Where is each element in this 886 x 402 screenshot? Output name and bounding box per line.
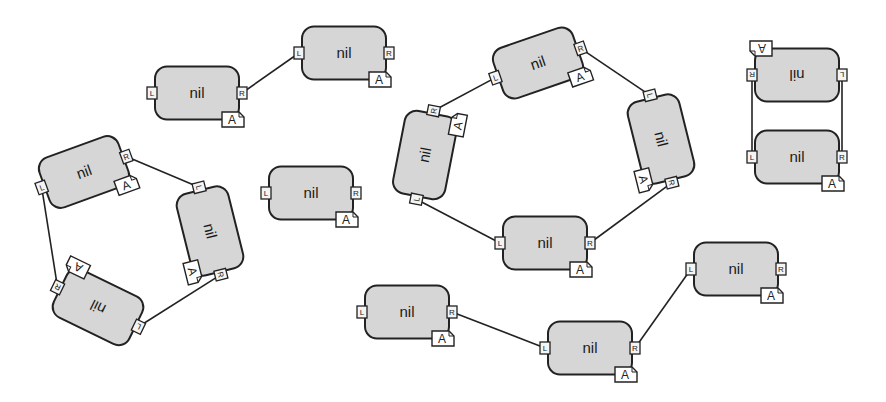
badge-label: A — [767, 289, 775, 303]
edge-r4-r1[interactable] — [434, 78, 496, 111]
port-label: R — [353, 189, 359, 198]
node-label: nil — [415, 146, 435, 164]
port-label: L — [543, 344, 548, 353]
badge-label: A — [576, 263, 584, 277]
port-right[interactable]: R — [585, 237, 595, 249]
port-label: R — [386, 49, 392, 58]
port-right[interactable]: R — [351, 187, 361, 199]
node-graph: nilLRAnilLRAnilLRAnilLRAnilLRAnilLRAnilL… — [0, 0, 886, 402]
badge-label: A — [828, 177, 836, 191]
node-label: nil — [582, 339, 597, 356]
node-label: nil — [728, 260, 743, 277]
port-label: L — [750, 153, 755, 162]
annotation-badge-icon[interactable]: A — [761, 288, 783, 303]
port-label: R — [449, 308, 455, 317]
port-left[interactable]: L — [495, 237, 505, 249]
node-r3[interactable]: nilLRA — [495, 217, 595, 278]
node-iso[interactable]: nilLRA — [261, 167, 361, 228]
node-c2[interactable]: nilLRA — [540, 322, 640, 383]
edge-t2-t3[interactable] — [138, 275, 220, 327]
node-t2[interactable]: nilLRA — [165, 176, 248, 288]
port-label: L — [839, 70, 844, 79]
badge-label: A — [758, 41, 766, 55]
port-right[interactable]: R — [837, 151, 847, 163]
annotation-badge-icon[interactable]: A — [570, 262, 592, 277]
badge-label: A — [621, 368, 629, 382]
node-label: nil — [336, 44, 351, 61]
node-r1[interactable]: nilLRA — [482, 22, 596, 112]
port-right[interactable]: R — [630, 342, 640, 354]
port-label: R — [839, 153, 845, 162]
node-c3[interactable]: nilLRA — [686, 243, 786, 304]
port-left[interactable]: L — [147, 87, 157, 99]
badge-label: A — [375, 73, 383, 87]
port-left[interactable]: L — [747, 151, 757, 163]
node-p1[interactable]: nilLRA — [747, 41, 847, 102]
port-right[interactable]: R — [447, 306, 457, 318]
port-left[interactable]: L — [192, 181, 206, 194]
node-n1[interactable]: nilLRA — [147, 67, 247, 128]
badge-label: A — [342, 213, 350, 227]
node-label: nil — [537, 234, 552, 251]
port-right[interactable]: R — [384, 47, 394, 59]
node-t3[interactable]: nilLRA — [41, 255, 157, 353]
annotation-badge-icon[interactable]: A — [615, 367, 637, 382]
port-right[interactable]: R — [776, 263, 786, 275]
port-left[interactable]: L — [686, 263, 696, 275]
edge-r2-r3[interactable] — [590, 183, 672, 243]
port-left[interactable]: L — [294, 47, 304, 59]
port-label: L — [297, 49, 302, 58]
annotation-badge-icon[interactable]: A — [448, 112, 467, 136]
port-right[interactable]: R — [214, 268, 228, 281]
badge-label: A — [228, 113, 236, 127]
port-label: L — [264, 189, 269, 198]
port-left[interactable]: L — [643, 89, 657, 102]
port-label: R — [239, 89, 245, 98]
port-label: L — [150, 89, 155, 98]
annotation-badge-icon[interactable]: A — [822, 176, 844, 191]
edge-c1-c2[interactable] — [452, 312, 545, 348]
node-label: nil — [399, 303, 414, 320]
node-n2[interactable]: nilLRA — [294, 27, 394, 88]
edge-n1-n2[interactable] — [242, 53, 299, 93]
port-label: R — [632, 344, 638, 353]
port-right[interactable]: R — [665, 176, 679, 189]
port-label: L — [360, 308, 365, 317]
port-label: R — [778, 265, 784, 274]
edge-r3-r4[interactable] — [416, 199, 500, 243]
port-left[interactable]: L — [410, 193, 424, 205]
port-label: R — [749, 70, 755, 79]
port-right[interactable]: R — [237, 87, 247, 99]
port-label: R — [587, 239, 593, 248]
edge-c2-c3[interactable] — [635, 269, 691, 348]
diagram-canvas: nilLRAnilLRAnilLRAnilLRAnilLRAnilLRAnilL… — [0, 0, 886, 402]
port-label: L — [498, 239, 503, 248]
badge-label: A — [438, 332, 446, 346]
annotation-badge-icon[interactable]: A — [432, 331, 454, 346]
node-label: nil — [303, 184, 318, 201]
node-r2[interactable]: nilLRA — [616, 84, 699, 196]
node-label: nil — [189, 84, 204, 101]
annotation-badge-icon[interactable]: A — [222, 112, 244, 127]
port-left[interactable]: L — [261, 187, 271, 199]
node-c1[interactable]: nilLRA — [357, 286, 457, 347]
annotation-badge-icon[interactable]: A — [336, 212, 358, 227]
port-left[interactable]: L — [357, 306, 367, 318]
port-left[interactable]: L — [540, 342, 550, 354]
port-right[interactable]: R — [747, 69, 757, 81]
node-p2[interactable]: nilLRA — [747, 131, 847, 192]
node-r4[interactable]: nilLRA — [389, 101, 467, 211]
port-left[interactable]: L — [837, 69, 847, 81]
annotation-badge-icon[interactable]: A — [750, 41, 772, 56]
node-label: nil — [789, 148, 804, 165]
port-right[interactable]: R — [427, 105, 441, 117]
annotation-badge-icon[interactable]: A — [369, 72, 391, 87]
node-label: nil — [789, 67, 804, 84]
port-label: L — [689, 265, 694, 274]
nodes-layer: nilLRAnilLRAnilLRAnilLRAnilLRAnilLRAnilL… — [28, 22, 847, 382]
